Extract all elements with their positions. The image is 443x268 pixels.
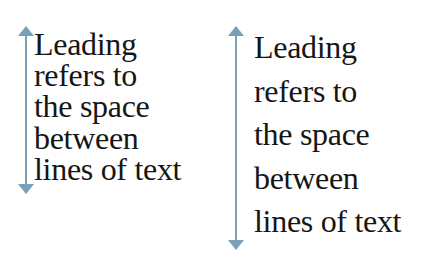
text-line: refers to — [34, 60, 181, 91]
leading-text-loose: Leading refers to the space between line… — [254, 26, 401, 244]
text-line: lines of text — [254, 200, 401, 244]
text-line: lines of text — [34, 154, 181, 185]
text-line: between — [34, 123, 181, 154]
text-line: the space — [34, 91, 181, 122]
text-line: Leading — [34, 29, 181, 60]
double-headed-vertical-arrow-icon — [17, 26, 35, 196]
leading-text-tight: Leading refers to the space between line… — [34, 29, 181, 185]
text-line: Leading — [254, 26, 401, 70]
text-line: between — [254, 157, 401, 201]
text-line: refers to — [254, 70, 401, 114]
text-line: the space — [254, 113, 401, 157]
double-headed-vertical-arrow-icon — [227, 26, 245, 252]
